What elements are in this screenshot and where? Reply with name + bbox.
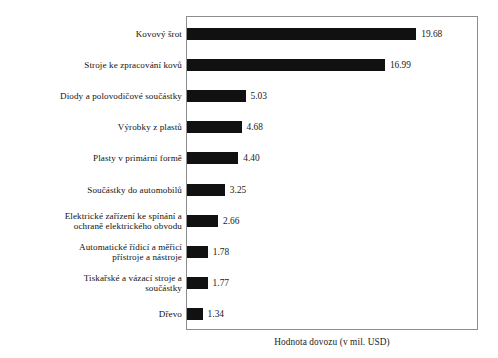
bar bbox=[187, 215, 218, 227]
bar bbox=[187, 277, 208, 289]
category-label: Plasty v primární formě bbox=[2, 153, 182, 163]
bar-value-label: 1.78 bbox=[213, 246, 229, 258]
bar bbox=[187, 246, 208, 258]
bar-row: Dřevo1.34 bbox=[0, 308, 498, 320]
bar bbox=[187, 28, 416, 40]
bar-value-label: 1.34 bbox=[208, 308, 224, 320]
bar bbox=[187, 152, 238, 164]
category-label: Automatické řídicí a měřicí přístroje a … bbox=[2, 242, 182, 263]
bar bbox=[187, 59, 385, 71]
x-axis-caption: Hodnota dovozu (v mil. USD) bbox=[186, 337, 478, 347]
bar-value-label: 16.99 bbox=[390, 59, 411, 71]
category-label: Výrobky z plastů bbox=[2, 122, 182, 132]
category-label: Diody a polovodičové součástky bbox=[2, 91, 182, 101]
category-label: Kovový šrot bbox=[2, 29, 182, 39]
bar bbox=[187, 308, 203, 320]
chart-page: Kovový šrot19.68Stroje ke zpracování kov… bbox=[0, 0, 498, 358]
bar-row: Elektrické zařízení ke spínání a ochraně… bbox=[0, 215, 498, 227]
bar-value-label: 3.25 bbox=[230, 184, 246, 196]
bar-value-label: 2.66 bbox=[223, 215, 239, 227]
bar bbox=[187, 121, 242, 133]
bar-row: Výrobky z plastů4.68 bbox=[0, 121, 498, 133]
bar-row: Kovový šrot19.68 bbox=[0, 28, 498, 40]
bar-value-label: 19.68 bbox=[421, 28, 442, 40]
bar-value-label: 4.68 bbox=[247, 121, 263, 133]
category-label: Součástky do automobilů bbox=[2, 185, 182, 195]
bar-row: Diody a polovodičové součástky5.03 bbox=[0, 90, 498, 102]
bar bbox=[187, 184, 225, 196]
bar bbox=[187, 90, 246, 102]
bar-value-label: 5.03 bbox=[251, 90, 267, 102]
bar-row: Tiskařské a vázací stroje a součástky1.7… bbox=[0, 277, 498, 289]
bar-row: Stroje ke zpracování kovů16.99 bbox=[0, 59, 498, 71]
bar-row: Automatické řídicí a měřicí přístroje a … bbox=[0, 246, 498, 258]
category-label: Stroje ke zpracování kovů bbox=[2, 60, 182, 70]
bar-row: Součástky do automobilů3.25 bbox=[0, 184, 498, 196]
category-label: Dřevo bbox=[2, 309, 182, 319]
bar-value-label: 4.40 bbox=[243, 152, 259, 164]
category-label: Tiskařské a vázací stroje a součástky bbox=[2, 273, 182, 294]
category-label: Elektrické zařízení ke spínání a ochraně… bbox=[2, 211, 182, 232]
bar-value-label: 1.77 bbox=[213, 277, 229, 289]
bar-row: Plasty v primární formě4.40 bbox=[0, 152, 498, 164]
